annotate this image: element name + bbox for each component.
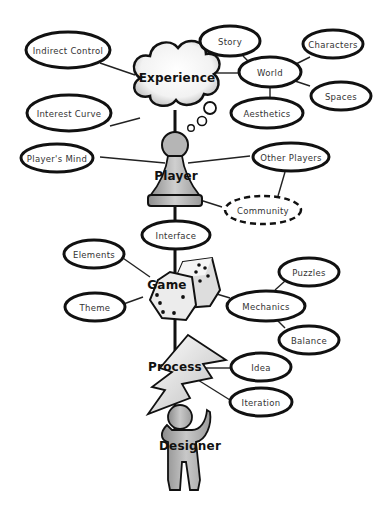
svg-text:Elements: Elements [73, 250, 115, 260]
experience-label: Experience [139, 71, 216, 85]
game-dice[interactable]: Game [147, 258, 220, 320]
node-indirect-control[interactable]: Indirect Control [26, 32, 110, 68]
node-players-mind[interactable]: Player's Mind [21, 144, 93, 172]
node-idea[interactable]: Idea [231, 353, 291, 381]
process-label: Process [148, 360, 202, 374]
svg-text:Aesthetics: Aesthetics [243, 109, 290, 119]
node-elements[interactable]: Elements [64, 240, 124, 268]
node-characters[interactable]: Characters [303, 30, 363, 58]
node-aesthetics[interactable]: Aesthetics [231, 98, 303, 128]
svg-text:Puzzles: Puzzles [292, 268, 326, 278]
node-iteration[interactable]: Iteration [230, 388, 292, 416]
svg-text:Mechanics: Mechanics [242, 302, 290, 312]
node-theme[interactable]: Theme [65, 293, 125, 321]
svg-text:World: World [257, 68, 283, 78]
node-other-players[interactable]: Other Players [253, 143, 329, 171]
node-interface[interactable]: Interface [142, 221, 210, 249]
game-label: Game [147, 278, 186, 292]
node-balance[interactable]: Balance [279, 326, 339, 354]
svg-text:Idea: Idea [251, 363, 271, 373]
svg-text:Balance: Balance [291, 336, 327, 346]
player-pawn[interactable]: Player [148, 132, 202, 206]
node-community[interactable]: Community [225, 196, 301, 224]
process-bolt[interactable]: Process [148, 335, 226, 414]
designer-label: Designer [159, 439, 221, 453]
node-interest-curve[interactable]: Interest Curve [27, 95, 111, 131]
svg-text:Iteration: Iteration [242, 398, 281, 408]
svg-text:Story: Story [218, 37, 242, 47]
node-story[interactable]: Story [200, 26, 260, 56]
svg-text:Spaces: Spaces [325, 92, 357, 102]
player-label: Player [154, 169, 198, 183]
experience-cloud[interactable]: Experience [134, 41, 220, 131]
thought-bubble-small [188, 125, 195, 132]
designer-figure[interactable]: Designer [159, 405, 221, 490]
thought-bubble-large [204, 102, 216, 114]
node-puzzles[interactable]: Puzzles [279, 258, 339, 286]
node-world[interactable]: World [239, 57, 301, 87]
svg-text:Indirect Control: Indirect Control [33, 46, 103, 56]
node-mechanics[interactable]: Mechanics [227, 291, 305, 321]
node-spaces[interactable]: Spaces [311, 82, 371, 110]
svg-text:Interface: Interface [156, 231, 197, 241]
svg-text:Interest Curve: Interest Curve [37, 109, 102, 119]
svg-text:Characters: Characters [308, 40, 358, 50]
thought-bubble-medium [198, 117, 207, 126]
game-design-diagram: Experience Player Game Process Designer [0, 0, 385, 515]
svg-text:Other Players: Other Players [260, 153, 322, 163]
svg-text:Player's Mind: Player's Mind [27, 154, 87, 164]
svg-text:Community: Community [237, 206, 289, 216]
svg-text:Theme: Theme [79, 303, 111, 313]
